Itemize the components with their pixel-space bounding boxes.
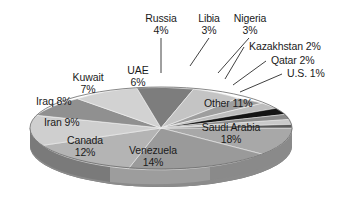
- label-qatar: Qatar 2%: [271, 55, 315, 67]
- label-iraq: Iraq 8%: [36, 96, 72, 108]
- label-canada: Canada 12%: [53, 135, 117, 158]
- label-uae-pct: 6%: [118, 77, 158, 89]
- label-kuwait-name: Kuwait: [62, 72, 114, 84]
- label-us: U.S. 1%: [287, 68, 325, 80]
- label-kuwait: Kuwait 7%: [62, 72, 114, 95]
- label-saudi-arabia: Saudi Arabia 18%: [189, 122, 273, 145]
- label-canada-pct: 12%: [53, 147, 117, 159]
- pie-chart: Russia 4% Libia 3% Nigeria 3% Kazakhstan…: [0, 0, 344, 208]
- leader-line-nigeria: [218, 38, 249, 73]
- label-canada-name: Canada: [53, 135, 117, 147]
- label-kazakhstan: Kazakhstan 2%: [249, 41, 321, 53]
- leader-line-libia: [190, 38, 209, 66]
- label-kuwait-pct: 7%: [62, 84, 114, 96]
- label-other: Other 11%: [204, 98, 253, 110]
- label-nigeria-pct: 3%: [222, 25, 278, 37]
- label-uae: UAE 6%: [118, 65, 158, 88]
- leader-line-kazakhstan: [225, 47, 244, 79]
- label-saudi-arabia-name: Saudi Arabia: [189, 122, 273, 134]
- label-venezuela: Venezuela 14%: [114, 145, 192, 168]
- label-nigeria-name: Nigeria: [222, 13, 278, 25]
- label-saudi-arabia-pct: 18%: [189, 134, 273, 146]
- label-iran: Iran 9%: [44, 117, 80, 129]
- leader-line-qatar: [233, 61, 266, 85]
- label-nigeria: Nigeria 3%: [222, 13, 278, 36]
- leader-line-us: [240, 74, 282, 92]
- label-venezuela-name: Venezuela: [114, 145, 192, 157]
- label-venezuela-pct: 14%: [114, 157, 192, 169]
- label-uae-name: UAE: [118, 65, 158, 77]
